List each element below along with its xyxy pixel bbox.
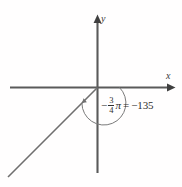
radian-minus-sign: − [101, 100, 107, 111]
angle-measure-label: − 3 4 π = −135 [101, 96, 154, 116]
degree-value: −135 [131, 100, 153, 111]
fraction-denominator: 4 [108, 106, 114, 115]
fraction-numerator: 3 [108, 96, 114, 105]
fraction-three-fourths: 3 4 [108, 96, 114, 116]
x-axis-label: x [166, 71, 170, 81]
pi-symbol: π [115, 100, 121, 111]
angle-diagram-figure: y x − 3 4 π = −135 [0, 0, 182, 187]
arrow-right-icon [167, 84, 176, 92]
equals-sign: = [123, 100, 129, 111]
y-axis-label: y [101, 14, 105, 24]
diagram-canvas [0, 0, 182, 187]
